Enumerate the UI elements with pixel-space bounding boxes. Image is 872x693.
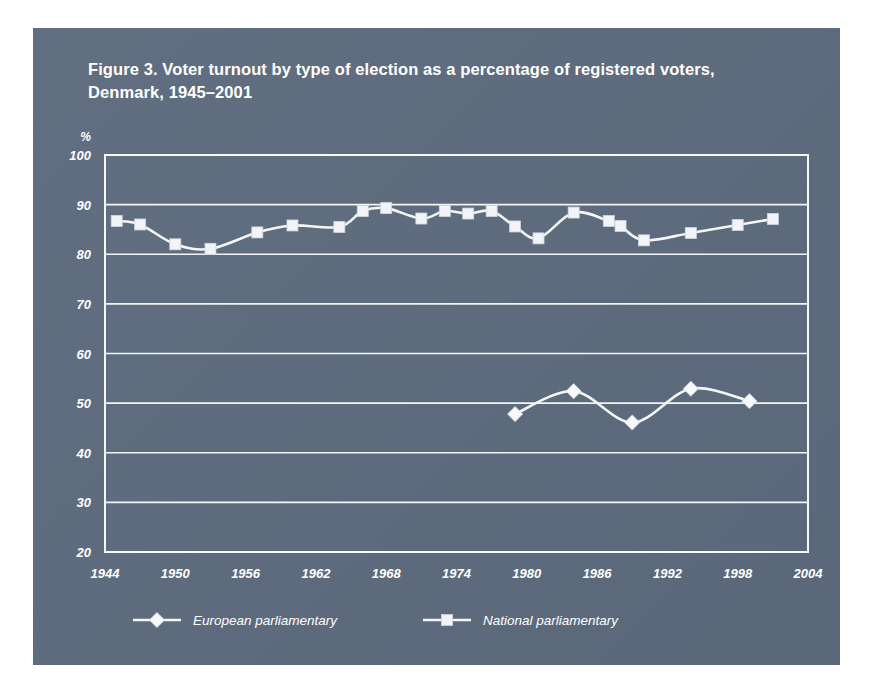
- y-tick-label-70: 70: [77, 297, 92, 312]
- y-tick-label-90: 90: [77, 198, 92, 213]
- figure-root: Figure 3. Voter turnout by type of elect…: [0, 0, 872, 693]
- data-point-marker: [463, 208, 474, 219]
- data-point-marker: [135, 219, 146, 230]
- data-point-marker: [111, 216, 122, 227]
- y-axis-ticklabels: 2030405060708090100: [69, 148, 91, 560]
- legend-item-european-parliamentary[interactable]: European parliamentary: [133, 612, 338, 628]
- data-point-marker: [149, 612, 164, 627]
- data-point-marker: [416, 213, 427, 224]
- y-tick-label-50: 50: [77, 396, 92, 411]
- legend-item-national-parliamentary[interactable]: National parliamentary: [423, 613, 619, 628]
- data-point-marker: [603, 216, 614, 227]
- series-national-parliamentary: [111, 203, 778, 255]
- data-point-marker: [486, 206, 497, 217]
- data-point-marker: [381, 203, 392, 214]
- data-point-marker: [615, 220, 626, 231]
- data-point-marker: [742, 394, 757, 409]
- data-point-marker: [533, 233, 544, 244]
- data-point-marker: [625, 415, 640, 430]
- data-point-marker: [566, 384, 581, 399]
- chart-svg: 2030405060708090100 19441950195619621968…: [33, 28, 840, 665]
- series-european-parliamentary: [507, 381, 757, 430]
- x-tick-label-2004: 2004: [793, 566, 824, 581]
- x-tick-label-1968: 1968: [372, 566, 402, 581]
- figure-panel: Figure 3. Voter turnout by type of elect…: [33, 28, 840, 665]
- data-point-marker: [767, 214, 778, 225]
- chart-plot-area: 2030405060708090100 19441950195619621968…: [33, 28, 840, 665]
- chart-legend: European parliamentaryNational parliamen…: [133, 612, 619, 628]
- x-tick-label-1950: 1950: [161, 566, 191, 581]
- data-point-marker: [334, 221, 345, 232]
- data-point-marker: [568, 207, 579, 218]
- data-point-marker: [442, 615, 453, 626]
- x-axis-ticklabels: 1944195019561962196819741980198619921998…: [91, 566, 824, 581]
- data-point-marker: [439, 206, 450, 217]
- x-tick-label-1980: 1980: [512, 566, 542, 581]
- x-tick-label-1998: 1998: [723, 566, 753, 581]
- y-axis-unit-label-text: %: [80, 130, 91, 144]
- data-point-marker: [683, 381, 698, 396]
- data-point-marker: [638, 235, 649, 246]
- x-tick-label-1962: 1962: [301, 566, 331, 581]
- data-point-marker: [287, 220, 298, 231]
- y-tick-label-40: 40: [76, 446, 92, 461]
- data-point-marker: [510, 221, 521, 232]
- x-tick-label-1974: 1974: [442, 566, 472, 581]
- data-point-marker: [357, 206, 368, 217]
- data-point-marker: [732, 219, 743, 230]
- y-tick-label-100: 100: [69, 148, 91, 163]
- data-point-marker: [685, 227, 696, 238]
- y-tick-label-20: 20: [76, 545, 92, 560]
- y-tick-label-60: 60: [77, 347, 92, 362]
- data-point-marker: [507, 406, 522, 421]
- data-point-marker: [205, 243, 216, 254]
- legend-label: European parliamentary: [193, 613, 338, 628]
- x-tick-label-1956: 1956: [231, 566, 261, 581]
- x-tick-label-1986: 1986: [583, 566, 613, 581]
- x-tick-label-1992: 1992: [653, 566, 683, 581]
- y-axis-unit-label: %: [80, 130, 91, 144]
- y-tick-label-80: 80: [77, 247, 92, 262]
- x-tick-label-1944: 1944: [91, 566, 121, 581]
- data-point-marker: [252, 227, 263, 238]
- y-tick-label-30: 30: [77, 495, 92, 510]
- data-point-marker: [170, 239, 181, 250]
- legend-label: National parliamentary: [483, 613, 619, 628]
- data-series-group: [111, 203, 778, 430]
